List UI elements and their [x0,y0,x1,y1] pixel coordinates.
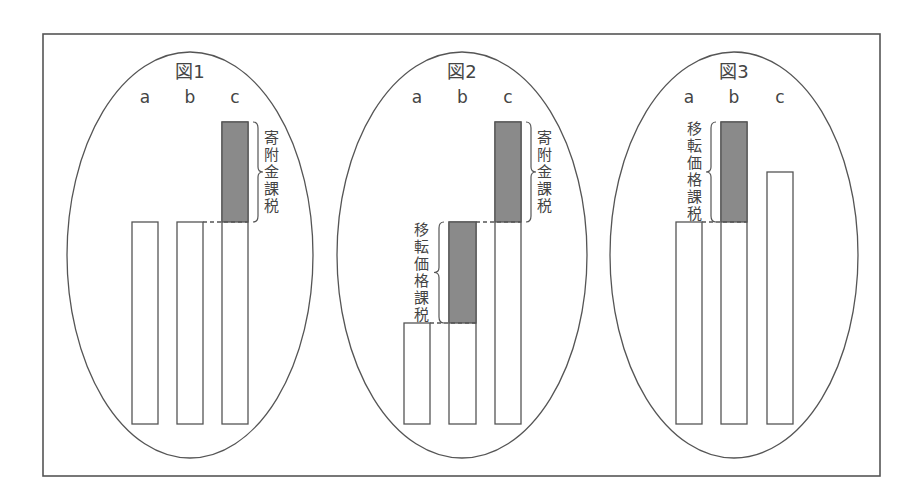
column-label-a: a [140,87,150,107]
annotation-char: 格 [414,272,429,290]
bar-c [767,172,793,424]
annotation-char: 寄 [264,129,279,147]
annotation-label: 移転価格課税 [414,221,429,324]
annotation-char: 移 [687,120,702,138]
column-label-b: b [729,87,740,107]
bar-c-tax-increment [222,122,248,222]
panel-title: 図1 [175,61,204,82]
annotation-char: 税 [537,197,552,215]
bar-b [177,222,203,424]
annotation-char: 附 [264,146,279,164]
annotation-label: 寄附金課税 [537,129,552,215]
bar-c-tax-increment [495,122,521,222]
annotation-char: 課 [264,180,279,198]
column-label-a: a [684,87,694,107]
annotation-char: 転 [414,238,429,256]
panel-2: 図2abc寄附金課税移転価格課税 [337,52,587,458]
annotation-char: 金 [537,163,552,181]
annotation-char: 金 [264,163,279,181]
annotation-char: 税 [264,197,279,215]
bar-a [404,323,430,424]
panels-group: 図1abc寄附金課税図2abc寄附金課税移転価格課税図3abc移転価格課税 [67,52,858,458]
annotation-char: 課 [537,180,552,198]
annotation-char: 格 [687,171,702,189]
bar-a [676,222,702,424]
diagram-canvas: 図1abc寄附金課税図2abc寄附金課税移転価格課税図3abc移転価格課税 [0,0,920,502]
annotation-label: 移転価格課税 [687,120,702,223]
annotation-char: 税 [414,306,429,324]
bar-a [132,222,158,424]
column-label-c: c [775,87,784,107]
annotation-char: 附 [537,146,552,164]
annotation-char: 課 [414,289,429,307]
column-label-b: b [185,87,196,107]
annotation-char: 価 [687,154,702,172]
diagram-figure: 図1abc寄附金課税図2abc寄附金課税移転価格課税図3abc移転価格課税 [0,0,920,502]
panel-title: 図2 [447,61,476,82]
annotation-label: 寄附金課税 [264,129,279,215]
panel-title: 図3 [719,61,748,82]
column-label-c: c [503,87,512,107]
column-label-a: a [412,87,422,107]
annotation-char: 転 [687,137,702,155]
panel-3: 図3abc移転価格課税 [610,52,858,458]
column-label-b: b [457,87,468,107]
panel-1: 図1abc寄附金課税 [67,52,313,458]
bar-b-tax-increment [721,122,747,222]
bar-b-tax-increment [449,222,476,323]
annotation-char: 寄 [537,129,552,147]
annotation-char: 価 [414,255,429,273]
annotation-char: 課 [687,188,702,206]
annotation-char: 税 [687,205,702,223]
annotation-char: 移 [414,221,429,239]
column-label-c: c [230,87,239,107]
